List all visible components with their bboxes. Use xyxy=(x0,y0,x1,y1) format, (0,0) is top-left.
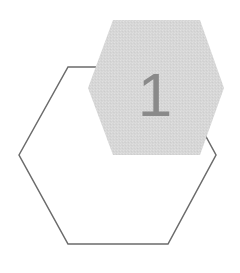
diagram-canvas: 1 xyxy=(0,0,240,273)
hexagon-filled-group: 1 xyxy=(88,20,224,155)
step-number-label: 1 xyxy=(138,60,172,129)
hexagon-diagram: 1 xyxy=(0,0,240,273)
